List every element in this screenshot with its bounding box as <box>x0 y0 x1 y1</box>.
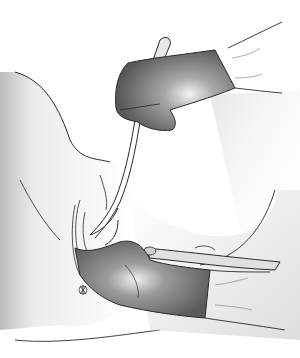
illustration-canvas <box>0 0 300 358</box>
medical-illustration <box>0 0 300 358</box>
